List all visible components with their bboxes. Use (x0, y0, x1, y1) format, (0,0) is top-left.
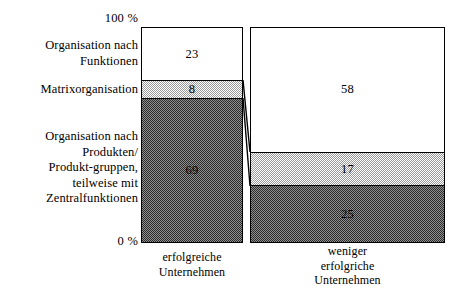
segment-produkte-right[interactable]: 25 (251, 185, 444, 241)
segment-funktionen-left[interactable]: 23 (142, 28, 242, 80)
x-category-label-erfolgreiche-unternehmen: erfolgreiche Unternehmen (141, 250, 243, 279)
segment-value: 58 (341, 83, 354, 96)
axis-label-bottom: 0 % (118, 234, 138, 248)
plot-area: 23 8 69 58 17 25 (141, 27, 445, 243)
segment-value: 23 (185, 48, 198, 61)
chart-figure: 100 % 0 % Organisation nach Funktionen M… (0, 0, 467, 301)
axis-label-top: 100 % (105, 11, 138, 25)
segment-funktionen-right[interactable]: 58 (251, 28, 444, 152)
segment-value: 69 (185, 164, 198, 177)
segment-value: 25 (341, 208, 354, 221)
segment-matrixorganisation-left[interactable]: 8 (142, 80, 242, 98)
legend-label-organisation-nach-funktionen: Organisation nach Funktionen (45, 38, 138, 69)
legend-label-matrixorganisation: Matrixorganisation (41, 82, 138, 98)
bar-weniger-erfolgriche-unternehmen[interactable]: 58 17 25 (250, 27, 445, 243)
legend-label-organisation-nach-produkten: Organisation nach Produkten/ Produkt-gru… (45, 129, 138, 207)
segment-matrixorganisation-right[interactable]: 17 (251, 152, 444, 186)
segment-produkte-left[interactable]: 69 (142, 98, 242, 242)
bar-erfolgreiche-unternehmen[interactable]: 23 8 69 (141, 27, 243, 243)
x-category-label-weniger-erfolgriche-unternehmen: weniger erfolgriche Unternehmen (250, 244, 445, 288)
segment-value: 8 (189, 83, 196, 96)
segment-value: 17 (341, 163, 354, 176)
